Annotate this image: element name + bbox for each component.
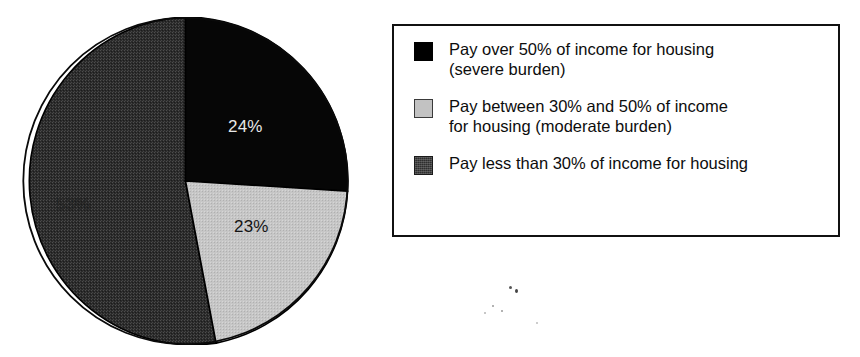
legend-label-line1: Pay less than 30% of income for housing [449, 154, 748, 172]
pie-svg [22, 17, 349, 345]
scan-artifact [492, 305, 494, 307]
pie-slice-severe-burden [186, 17, 348, 191]
legend-label-line1: Pay between 30% and 50% of income [449, 97, 728, 115]
legend-swatch-light-gray-icon [414, 99, 433, 118]
legend-swatch-black-icon [414, 42, 433, 61]
scan-artifact [501, 310, 503, 312]
scan-artifact [509, 286, 512, 289]
legend-item-moderate-burden: Pay between 30% and 50% of income for ho… [414, 96, 828, 136]
scan-artifact [536, 322, 538, 324]
legend-label-line2: (severe burden) [449, 59, 714, 79]
legend-label-severe-burden: Pay over 50% of income for housing (seve… [449, 39, 714, 79]
legend-item-less-than-30: Pay less than 30% of income for housing [414, 153, 828, 175]
pie-label-moderate-burden: 23% [234, 217, 269, 237]
pie-label-less-than-30: 53% [56, 195, 91, 215]
legend: Pay over 50% of income for housing (seve… [392, 24, 840, 237]
legend-item-list: Pay over 50% of income for housing (seve… [414, 39, 828, 175]
scan-artifact [484, 312, 486, 314]
pie-chart: 24% 23% 53% [22, 17, 349, 345]
legend-label-less-than-30: Pay less than 30% of income for housing [449, 153, 748, 173]
legend-label-line2: for housing (moderate burden) [449, 116, 728, 136]
legend-label-line1: Pay over 50% of income for housing [449, 40, 714, 58]
scan-artifact [515, 289, 518, 293]
pie-chart-figure: 24% 23% 53% Pay over 50% of income for h… [0, 0, 860, 357]
legend-label-moderate-burden: Pay between 30% and 50% of income for ho… [449, 96, 728, 136]
legend-swatch-dark-gray-icon [414, 156, 433, 175]
legend-item-severe-burden: Pay over 50% of income for housing (seve… [414, 39, 828, 79]
pie-label-severe-burden: 24% [228, 117, 263, 137]
